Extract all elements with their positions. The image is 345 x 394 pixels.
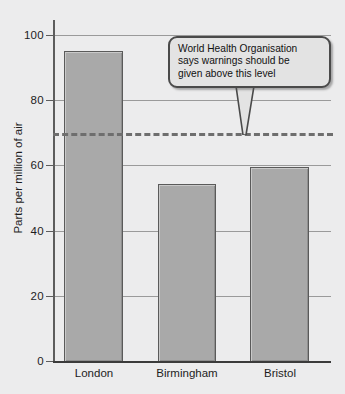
- y-tick-label-0: 0: [37, 355, 44, 367]
- callout-pointer: [233, 86, 257, 135]
- y-tick-label-40: 40: [31, 225, 44, 237]
- callout-line-1: World Health Organisation: [178, 43, 322, 55]
- x-tick-label-london: London: [44, 367, 144, 379]
- tick-60: [46, 165, 53, 166]
- x-axis-line: [53, 361, 331, 363]
- tick-80: [46, 100, 53, 101]
- callout-line-3: given above this level: [178, 68, 322, 80]
- y-tick-label-60: 60: [31, 159, 44, 171]
- who-threshold-line: [53, 133, 333, 136]
- x-tick-label-birmingham: Birmingham: [137, 367, 237, 379]
- callout-line-2: says warnings should be: [178, 55, 322, 67]
- tick-100: [46, 35, 53, 36]
- bar-bristol[interactable]: [250, 167, 309, 362]
- y-axis-title: Parts per million of air: [12, 108, 24, 248]
- x-tick-label-bristol: Bristol: [230, 367, 330, 379]
- bar-birmingham[interactable]: [158, 184, 216, 362]
- y-tick-label-20: 20: [31, 290, 44, 302]
- y-axis-line: [53, 20, 55, 363]
- bar-london[interactable]: [64, 51, 123, 362]
- bar-chart: 100 80 60 40 20 0 Parts per million of a…: [0, 0, 345, 394]
- y-tick-label-100: 100: [24, 29, 44, 41]
- tick-0: [46, 361, 53, 362]
- tick-20: [46, 296, 53, 297]
- tick-40: [46, 231, 53, 232]
- y-tick-label-80: 80: [31, 94, 44, 106]
- who-callout-box: World Health Organisation says warnings …: [168, 36, 331, 88]
